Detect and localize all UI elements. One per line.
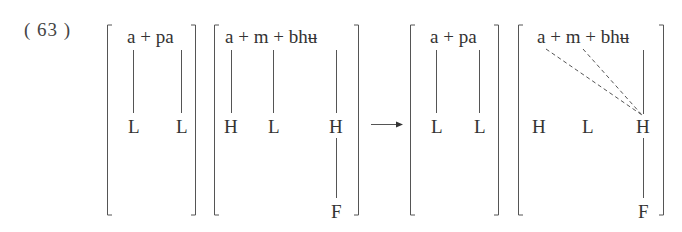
- bracket-1-tone-2: L: [176, 117, 188, 136]
- bracket-2-tone-1: H: [224, 117, 238, 136]
- bracket-4-left: [519, 25, 524, 215]
- bracket-4-right: [659, 25, 664, 215]
- bracket-4-tone-1: H: [532, 117, 546, 136]
- bracket-3-right: [494, 25, 499, 215]
- bracket-2-floating-tone: F: [331, 202, 342, 221]
- bracket-4-segments: a + m + bhʉ: [537, 27, 629, 46]
- bracket-3-segments: a + pa: [430, 27, 477, 46]
- arrow-head: [396, 122, 403, 128]
- bracket-4-floating-tone: F: [638, 202, 649, 221]
- bracket-1-left: [108, 25, 113, 215]
- bracket-4-tone-3: H: [636, 117, 650, 136]
- bracket-1-tone-1: L: [128, 117, 140, 136]
- dashed-assoc-b4-a-to-H: [546, 49, 642, 115]
- bracket-2-tone-3: H: [329, 117, 343, 136]
- bracket-3-tone-2: L: [474, 117, 486, 136]
- bracket-1-segments: a + pa: [127, 27, 174, 46]
- bracket-2-segments: a + m + bhʉ: [225, 27, 317, 46]
- bracket-1-right: [191, 25, 196, 215]
- bracket-2-left: [215, 25, 220, 215]
- bracket-4-tone-2: L: [582, 117, 594, 136]
- bracket-2-right: [354, 25, 359, 215]
- bracket-2-tone-2: L: [268, 117, 280, 136]
- dashed-assoc-b4-m-to-H: [583, 49, 642, 115]
- bracket-3-tone-1: L: [431, 117, 443, 136]
- bracket-3-left: [411, 25, 416, 215]
